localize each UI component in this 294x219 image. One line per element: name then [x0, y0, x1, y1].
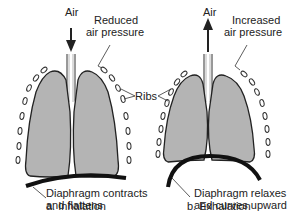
left-lung	[26, 71, 71, 177]
caption-exhalation: b. Exhalation	[187, 200, 251, 212]
diaphragm-label-inhalation-line1: Diaphragm contracts	[46, 187, 148, 199]
ribs-label: Ribs	[135, 90, 157, 102]
right-lung	[208, 75, 254, 162]
exhalation-panel	[156, 18, 270, 197]
pressure-label-exhalation-line2: air pressure	[224, 26, 282, 38]
arrow-down-icon	[66, 40, 76, 52]
pressure-label-exhalation-line1: Increased	[232, 14, 280, 26]
air-label-inhalation: Air	[65, 6, 78, 18]
caption-inhalation: a. Inhalation	[46, 200, 106, 212]
pressure-label-inhalation-line2: air pressure	[86, 26, 144, 38]
inhalation-panel	[16, 28, 135, 198]
left-lung	[164, 75, 208, 162]
diaphragm-label-exhalation-line1: Diaphragm relaxes	[194, 187, 286, 199]
pressure-label-inhalation-line1: Reduced	[94, 14, 138, 26]
right-lung	[73, 71, 118, 177]
air-label-exhalation: Air	[203, 6, 216, 18]
